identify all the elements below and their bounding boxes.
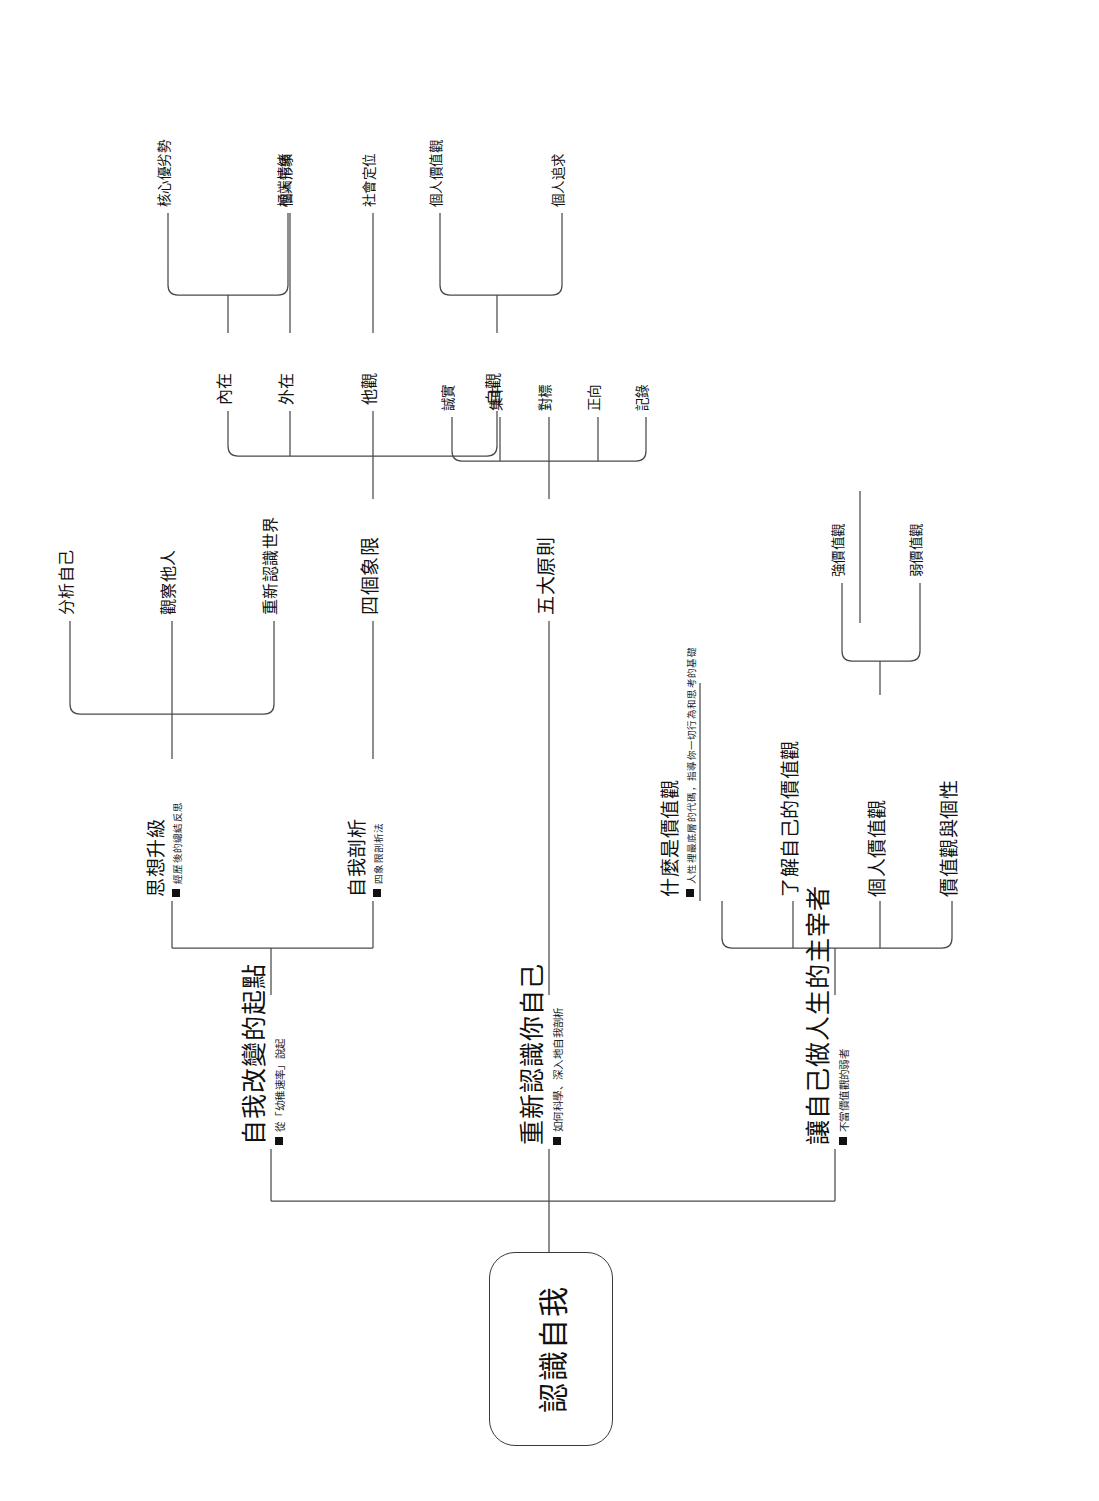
bullet-icon: [373, 889, 381, 897]
quadrant-outer[interactable]: 外在: [278, 372, 296, 405]
self-analysis-node[interactable]: 自我剖析 四象限剖析法: [347, 819, 385, 897]
bullet-icon: [172, 889, 180, 897]
bullet-icon: [275, 1137, 283, 1145]
root-node-label: 認識自我: [529, 1285, 573, 1413]
principle-record[interactable]: 記錄: [635, 384, 650, 411]
leaf-personal-values[interactable]: 個人價值觀: [429, 140, 444, 207]
know-your-values-node[interactable]: 了解自己的價值觀: [780, 740, 801, 897]
branch-3-note-text: 不當價值觀的弱者: [838, 1049, 850, 1132]
leaf-reknow-world[interactable]: 重新認識世界: [262, 516, 280, 615]
branch-1-note: 從「幼稚速率」說起: [275, 963, 287, 1145]
mindmap-canvas: 認識自我 自我改變的起點 從「幼稚速率」說起 思想升級 經歷後的總結反思 分析自…: [0, 0, 1099, 1501]
what-is-values-label: 什麼是價值觀: [660, 647, 681, 897]
branch-3-note: 不當價值觀的弱者: [839, 885, 851, 1145]
leaf-analyze-self[interactable]: 分析自己: [58, 549, 76, 615]
branch-2-note: 如何科學、深入地自我剖析: [553, 963, 565, 1145]
quadrant-inner[interactable]: 內在: [216, 372, 234, 405]
thought-upgrade-node[interactable]: 思想升級 經歷後的總結反思: [146, 802, 184, 897]
branch-3-node[interactable]: 讓自己做人生的主宰者 不當價值觀的弱者: [805, 885, 851, 1145]
branch-2-note-text: 如何科學、深入地自我剖析: [552, 1007, 564, 1132]
bullet-icon: [686, 889, 694, 897]
branch-1-label: 自我改變的起點: [241, 963, 269, 1145]
thought-upgrade-note: 經歷後的總結反思: [172, 802, 184, 897]
mindmap-rotated-layer: 認識自我 自我改變的起點 從「幼稚速率」說起 思想升級 經歷後的總結反思 分析自…: [0, 0, 1099, 1501]
thought-upgrade-label: 思想升級: [146, 802, 167, 897]
self-analysis-note-text: 四象限剖析法: [373, 822, 384, 884]
what-is-values-note-text: 人性裡最底層的代碼，指導你一切行為和思考的基礎: [686, 647, 697, 884]
leaf-personal-pursuit[interactable]: 個人追求: [551, 153, 566, 207]
leaf-weak-values[interactable]: 弱價值觀: [909, 523, 924, 577]
branch-1-node[interactable]: 自我改變的起點 從「幼稚速率」說起: [241, 963, 287, 1145]
personal-values-node[interactable]: 個人價值觀: [867, 799, 888, 897]
five-principles-node[interactable]: 五大原則: [536, 537, 557, 615]
leaf-strong-values[interactable]: 強價值觀: [831, 523, 846, 577]
branch-2-node[interactable]: 重新認識你自己 如何科學、深入地自我剖析: [519, 963, 565, 1145]
principle-positive[interactable]: 正向: [587, 384, 602, 411]
bullet-icon: [553, 1137, 561, 1145]
principle-focus[interactable]: 集中: [489, 384, 504, 411]
what-is-values-note: 人性裡最底層的代碼，指導你一切行為和思考的基礎: [686, 647, 698, 897]
leaf-social-position[interactable]: 社會定位: [362, 153, 377, 207]
principle-benchmark[interactable]: 對標: [538, 384, 553, 411]
four-quadrants-node[interactable]: 四個象限: [360, 537, 381, 615]
bullet-icon: [839, 1137, 847, 1145]
leaf-core-strengths-weaknesses[interactable]: 核心優劣勢: [157, 140, 172, 207]
what-is-values-node[interactable]: 什麼是價值觀 人性裡最底層的代碼，指導你一切行為和思考的基礎: [660, 647, 698, 897]
leaf-observe-others[interactable]: 觀察他人: [160, 549, 178, 615]
root-node[interactable]: 認識自我: [489, 1252, 613, 1446]
quadrant-others-view[interactable]: 他觀: [361, 372, 379, 405]
self-analysis-note: 四象限剖析法: [373, 819, 385, 897]
principle-honest[interactable]: 誠實: [441, 384, 456, 411]
thought-upgrade-note-text: 經歷後的總結反思: [172, 802, 183, 884]
values-and-personality-node[interactable]: 價值觀與個性: [939, 779, 960, 897]
branch-1-note-text: 從「幼稚速率」說起: [274, 1038, 286, 1132]
leaf-personal-image[interactable]: 個人形象: [279, 153, 294, 207]
branch-3-label: 讓自己做人生的主宰者: [805, 885, 833, 1145]
self-analysis-label: 自我剖析: [347, 819, 368, 897]
branch-2-label: 重新認識你自己: [519, 963, 547, 1145]
